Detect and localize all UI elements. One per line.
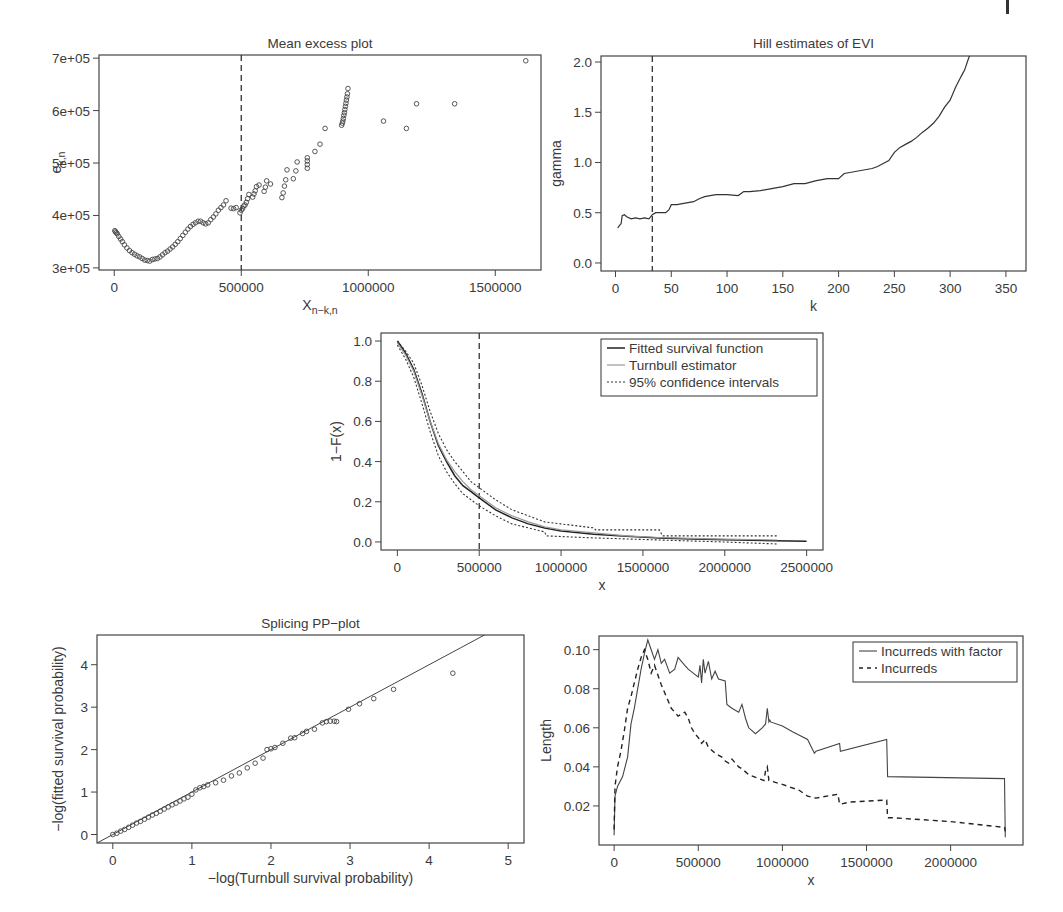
- y-tick-label: 0.10: [564, 643, 590, 658]
- legend-label: 95% confidence intervals: [629, 375, 779, 390]
- x-axis: 05000001000000150000020000002500000: [394, 550, 833, 575]
- x-tick-label: 4: [425, 853, 433, 868]
- x-axis-label: x: [808, 872, 815, 888]
- plot-area: [618, 54, 971, 271]
- x-tick-label: 500000: [219, 280, 264, 295]
- data-line: [618, 54, 971, 228]
- plot-area: [112, 55, 528, 270]
- y-tick-label: 0.6: [353, 414, 372, 429]
- y-tick-label: 0.5: [573, 206, 592, 221]
- y-tick-label: 6e+05: [52, 104, 90, 119]
- x-tick-label: 500000: [457, 560, 502, 575]
- x-tick-label: 3: [346, 853, 354, 868]
- legend: Incurreds with factorIncurreds: [853, 642, 1017, 682]
- plot-frame: [601, 56, 1026, 271]
- y-tick-label: 1.5: [573, 105, 592, 120]
- x-tick-label: 2: [267, 853, 275, 868]
- legend: Fitted survival functionTurnbull estimat…: [601, 339, 817, 396]
- x-tick-label: 1000000: [756, 855, 809, 870]
- x-axis: 012345: [109, 843, 512, 868]
- chart-length: 05000001000000150000020000000.020.040.06…: [538, 636, 1023, 888]
- x-tick-label: 250: [883, 281, 906, 296]
- chart-title: Hill estimates of EVI: [753, 36, 874, 51]
- x-axis-label: Xn−k,n: [302, 297, 337, 316]
- y-tick-label: 2.0: [573, 55, 592, 70]
- y-tick-label: 0.8: [353, 374, 372, 389]
- x-tick-label: 1500000: [617, 560, 670, 575]
- x-tick-label: 200: [827, 281, 850, 296]
- y-axis-label: Length: [538, 719, 554, 762]
- y-tick-label: 0.0: [353, 535, 372, 550]
- x-tick-label: 0: [109, 853, 117, 868]
- y-tick-label: 4e+05: [52, 208, 90, 223]
- y-axis-label: gamma: [548, 140, 564, 187]
- x-tick-label: 0: [610, 855, 618, 870]
- y-axis-label: −log(fitted survival probability): [50, 646, 66, 832]
- legend-label: Incurreds with factor: [881, 644, 1003, 659]
- chart-hill: Hill estimates of EVI0501001502002503003…: [548, 36, 1026, 314]
- y-tick-label: 7e+05: [52, 51, 90, 66]
- x-tick-label: 50: [664, 281, 679, 296]
- y-tick-label: 0.04: [564, 760, 591, 775]
- x-tick-label: 100: [716, 281, 739, 296]
- x-tick-label: 2000000: [698, 560, 751, 575]
- y-tick-label: 0: [80, 828, 88, 843]
- x-tick-label: 1000000: [535, 560, 588, 575]
- x-tick-label: 1000000: [342, 280, 395, 295]
- x-tick-label: 350: [995, 281, 1018, 296]
- x-tick-label: 300: [939, 281, 962, 296]
- y-tick-label: 0.0: [573, 256, 592, 271]
- plot-frame: [99, 55, 541, 270]
- legend-label: Incurreds: [881, 661, 938, 676]
- y-tick-label: 2: [80, 743, 88, 758]
- x-tick-label: 1: [188, 853, 196, 868]
- y-axis: 0.020.040.060.080.10: [564, 643, 599, 814]
- x-tick-label: 2500000: [780, 560, 833, 575]
- chart-survival: 050000010000001500000200000025000000.00.…: [328, 333, 833, 593]
- legend-label: Fitted survival function: [629, 341, 763, 356]
- plot-area: [97, 614, 524, 843]
- x-tick-label: 5: [504, 853, 512, 868]
- x-tick-label: 1500000: [469, 280, 522, 295]
- y-tick-label: 4: [80, 658, 88, 673]
- chart-mean-excess: Mean excess plot0500000100000015000003e+…: [48, 36, 541, 316]
- x-axis-label: k: [810, 298, 818, 314]
- figure-canvas: Mean excess plot0500000100000015000003e+…: [0, 0, 1063, 912]
- x-axis: 0500000100000015000002000000: [610, 845, 977, 870]
- scatter-points: [112, 58, 528, 263]
- x-tick-label: 150: [772, 281, 795, 296]
- x-tick-label: 0: [110, 280, 118, 295]
- x-tick-label: 0: [394, 560, 402, 575]
- legend-label: Turnbull estimator: [629, 358, 737, 373]
- y-axis: 0.00.20.40.60.81.0: [353, 334, 381, 550]
- y-tick-label: 0.06: [564, 721, 590, 736]
- x-axis: 050000010000001500000: [110, 270, 521, 295]
- scatter-points: [111, 671, 456, 837]
- y-tick-label: 1.0: [573, 155, 592, 170]
- x-tick-label: 500000: [676, 855, 721, 870]
- y-tick-label: 3e+05: [52, 261, 90, 276]
- chart-title: Splicing PP−plot: [261, 616, 360, 631]
- x-tick-label: 1500000: [840, 855, 893, 870]
- x-axis-label: −log(Turnbull survival probability): [208, 870, 413, 886]
- x-tick-label: 2000000: [924, 855, 977, 870]
- x-axis-label: x: [599, 577, 606, 593]
- chart-pp-plot: Splicing PP−plot01234501234−log(Turnbull…: [50, 614, 524, 886]
- y-tick-label: 0.4: [353, 455, 372, 470]
- y-axis: 01234: [80, 658, 97, 843]
- plot-frame: [97, 635, 524, 843]
- y-tick-label: 1.0: [353, 334, 372, 349]
- chart-title: Mean excess plot: [267, 36, 372, 51]
- y-tick-label: 3: [80, 700, 88, 715]
- y-axis: 0.00.51.01.52.0: [573, 55, 601, 271]
- x-tick-label: 0: [612, 281, 620, 296]
- y-tick-label: 0.08: [564, 682, 590, 697]
- y-tick-label: 1: [80, 785, 88, 800]
- y-tick-label: 0.02: [564, 799, 590, 814]
- y-tick-label: 0.2: [353, 495, 372, 510]
- x-axis: 050100150200250300350: [612, 271, 1017, 296]
- y-axis-label: 1−F(x): [328, 421, 344, 462]
